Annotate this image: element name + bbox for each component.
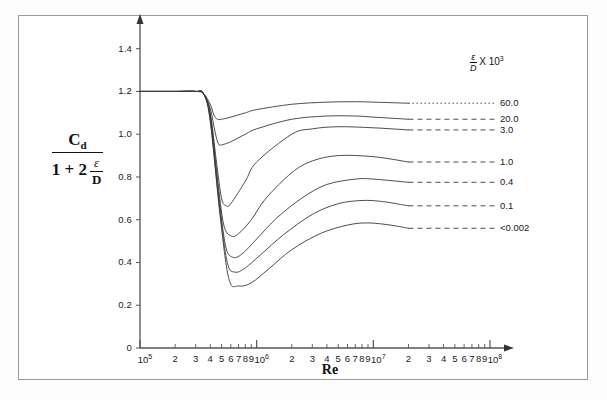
legend-label-10: 1.0: [500, 156, 513, 167]
legend-title-exponent: 3: [500, 55, 504, 62]
legend-title-factor: X 10: [479, 56, 500, 67]
y-axis-label-numerator: Cd: [52, 130, 104, 153]
curve-10: [140, 91, 408, 236]
x-tick-label: 2: [286, 353, 298, 364]
x-tick-label: 107: [365, 353, 391, 365]
curve-600: [140, 91, 408, 119]
y-axis-label: Cd 1 + 2εD: [30, 130, 125, 188]
x-tick-label: 2: [169, 353, 181, 364]
y-tick-label: 1.2: [102, 85, 132, 96]
x-axis-label: Re: [300, 362, 360, 378]
legend-title: εD X 103: [470, 52, 504, 73]
x-tick-label: 4: [438, 353, 450, 364]
x-tick-label: 106: [249, 353, 275, 365]
x-tick-label: 4: [204, 353, 216, 364]
y-tick-label: 0.6: [102, 214, 132, 225]
chart-canvas: [0, 0, 607, 400]
y-tick-label: 0.4: [102, 256, 132, 267]
curve-200: [140, 91, 408, 145]
x-tick-label: 108: [482, 353, 508, 365]
x-tick-label: 2: [402, 353, 414, 364]
x-tick-label: 3: [190, 353, 202, 364]
y-tick-label: 1.4: [102, 43, 132, 54]
y-tick-label: 0.2: [102, 299, 132, 310]
legend-label-0002: <0.002: [500, 222, 529, 233]
legend-label-600: 60.0: [500, 97, 519, 108]
legend-label-30: 3.0: [500, 124, 513, 135]
legend-label-04: 0.4: [500, 176, 513, 187]
data-curves: [140, 91, 408, 287]
axis-ticks: [136, 49, 490, 348]
x-tick-label: 105: [132, 353, 158, 365]
y-tick-label: 0: [102, 342, 132, 353]
y-axis-label-denominator: 1 + 2εD: [52, 153, 104, 188]
chart-page: 00.20.40.60.81.01.21.4 10523456789106234…: [0, 0, 607, 400]
legend-label-200: 20.0: [500, 113, 519, 124]
legend-sample-lines: [408, 103, 496, 228]
legend-label-01: 0.1: [500, 200, 513, 211]
x-tick-label: 3: [423, 353, 435, 364]
curve-01: [140, 91, 408, 272]
curve-04: [140, 91, 408, 258]
